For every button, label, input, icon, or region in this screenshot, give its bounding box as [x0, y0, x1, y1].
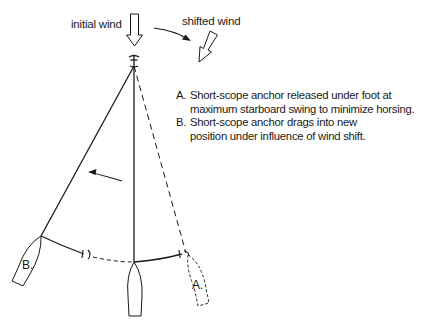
swing-arc-a-solid	[134, 254, 182, 262]
shifted-wind-arrow-icon	[199, 31, 218, 62]
initial-wind-arrow-icon	[127, 14, 143, 46]
swing-direction-arrow-icon	[88, 169, 122, 181]
initial-wind-label: initial wind	[71, 18, 122, 31]
shifted-wind-label: shifted wind	[182, 15, 240, 28]
legend-item-a: A. Short-scope anchor released under foo…	[176, 89, 414, 116]
anchoring-diagram	[0, 0, 443, 326]
legend-text-b: Short-scope anchor drags into new positi…	[190, 116, 366, 143]
legend-item-b: B. Short-scope anchor drags into new pos…	[176, 116, 414, 143]
swing-arc-b-solid	[41, 236, 84, 254]
swing-arc-b-dashed	[93, 257, 134, 262]
boat-b-label: B.	[22, 258, 33, 272]
boat-center-hull	[128, 262, 143, 316]
anchor-icon	[129, 55, 139, 67]
legend-key-b: B.	[176, 116, 190, 143]
legend: A. Short-scope anchor released under foo…	[176, 89, 414, 143]
anchor-marker-b-icon	[82, 250, 90, 259]
legend-text-a: Short-scope anchor released under foot a…	[190, 89, 414, 116]
boat-a-label: A.	[192, 278, 203, 292]
wind-shift-curve-arrow-icon	[154, 28, 191, 41]
boat-b-rode-line	[41, 66, 134, 236]
legend-key-a: A.	[176, 89, 190, 116]
